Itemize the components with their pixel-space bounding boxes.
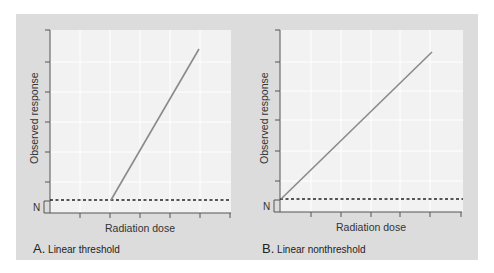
panel-a-caption: A. Linear threshold [33,241,120,256]
panel-a-ylabel: Observed response [28,72,40,164]
figure-svg [0,0,494,273]
panel-a-xlabel: Radiation dose [105,222,175,234]
panel-a-letter: A. [33,241,45,256]
n-bracket [274,200,280,212]
panel-b-xlabel: Radiation dose [336,221,406,233]
panel-a-title: Linear threshold [48,244,120,255]
panel-b-title: Linear nonthreshold [277,244,365,255]
panel-b-plot [274,30,463,217]
panel-a-plot [44,30,231,218]
panel-b-caption: B. Linear nonthreshold [262,241,365,256]
panel-a-n-label: N [33,202,40,213]
panel-b-n-label: N [263,201,270,212]
panel-b-ylabel: Observed response [258,72,270,164]
n-bracket [44,201,50,213]
panel-b-letter: B. [262,241,274,256]
